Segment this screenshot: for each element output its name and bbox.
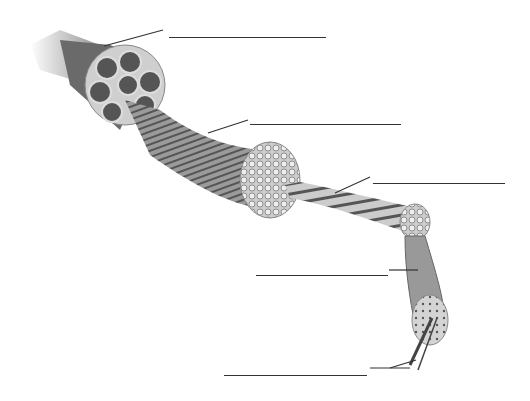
blank-label-line-5[interactable]	[224, 355, 367, 376]
fiber-cross-section	[400, 204, 430, 240]
blank-label-line-3[interactable]	[373, 163, 505, 184]
fascicle-cross-section	[240, 142, 300, 218]
blank-label-line-4[interactable]	[256, 255, 388, 276]
muscle-diagram	[0, 0, 530, 401]
blank-label-line-2[interactable]	[250, 104, 401, 125]
blank-label-line-1[interactable]	[169, 17, 326, 38]
